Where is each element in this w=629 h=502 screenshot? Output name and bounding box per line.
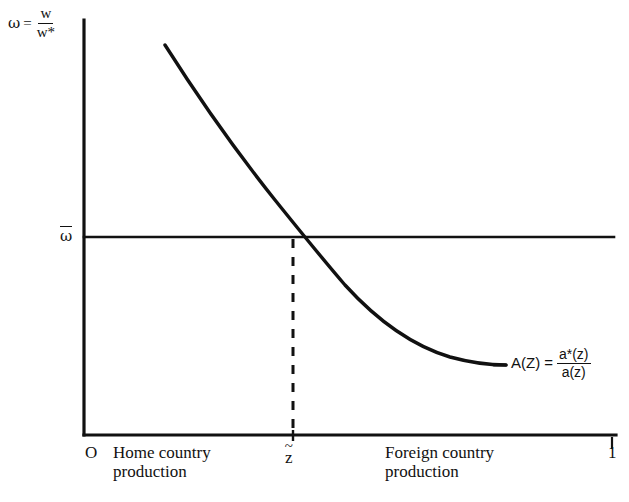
z-tilde-label: ~ z	[285, 444, 293, 467]
origin-label: O	[85, 443, 97, 462]
z-tilde-wrapper: ~ z	[285, 444, 293, 467]
omega-symbol: ω	[8, 15, 20, 32]
omega-bar-axis-label: ω	[60, 226, 72, 245]
a-of-z-curve	[165, 45, 506, 365]
foreign-country-region-label: Foreign country production	[385, 443, 494, 481]
tilde-mark: ~	[285, 439, 293, 454]
chart-figure: ω = w w* ω O Home country production ~ z…	[0, 0, 629, 502]
chart-plot-area	[0, 0, 629, 502]
equals-sign: =	[23, 15, 31, 32]
curve-equals: =	[544, 355, 553, 372]
home-country-region-label: Home country production	[113, 443, 211, 481]
foreign-country-line-1: Foreign country	[385, 443, 494, 462]
curve-name: A(Z)	[511, 355, 540, 372]
curve-ratio-fraction: a*(z) a(z)	[557, 347, 591, 379]
home-country-line-2: production	[113, 462, 211, 481]
curve-denominator: a(z)	[560, 364, 588, 380]
omega-bar-symbol: ω	[60, 226, 72, 245]
y-axis-label: ω = w w*	[8, 6, 57, 41]
curve-equation-label: A(Z) = a*(z) a(z)	[511, 347, 591, 379]
wage-numerator: w	[38, 6, 53, 24]
wage-denominator: w*	[35, 24, 57, 41]
wage-ratio-fraction: w w*	[35, 6, 57, 41]
x-axis-end-label: 1	[608, 443, 617, 462]
home-country-line-1: Home country	[113, 443, 211, 462]
curve-numerator: a*(z)	[557, 347, 591, 364]
foreign-country-line-2: production	[385, 462, 494, 481]
